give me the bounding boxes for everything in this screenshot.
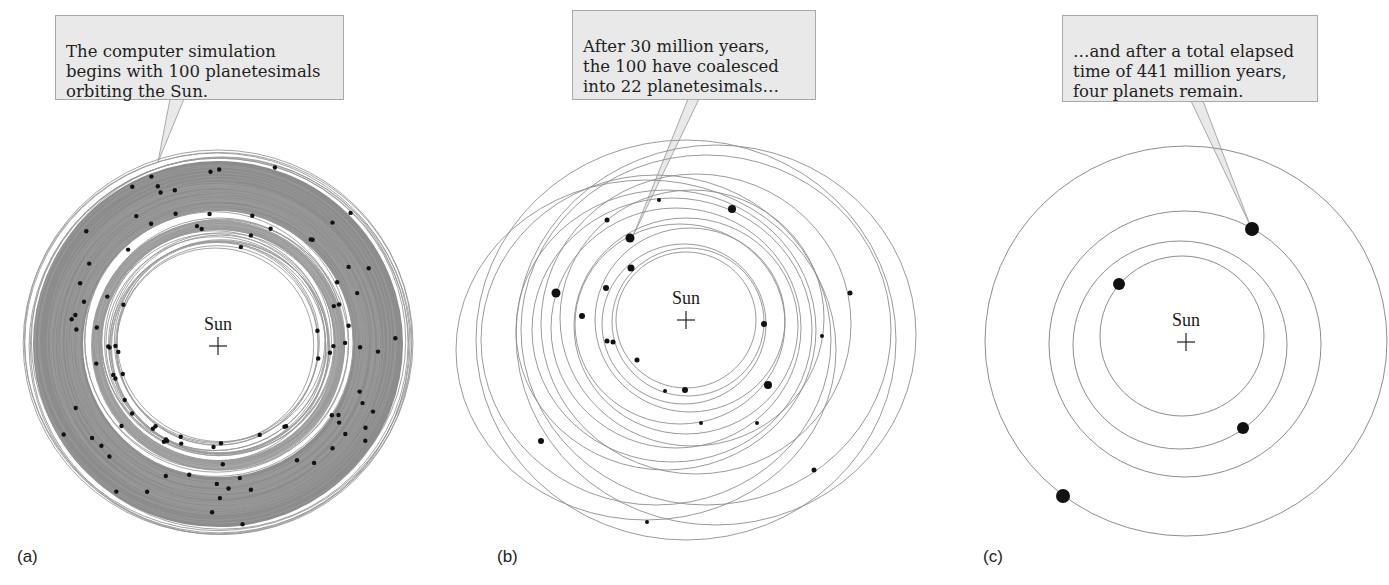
planetesimal [682,387,688,393]
planetesimal [337,420,341,424]
planetesimal [611,340,616,345]
planetesimal [121,372,125,376]
planet-1 [1113,278,1125,290]
planetesimal [635,358,640,363]
planetesimal [628,265,635,272]
planetesimal [94,361,98,365]
planetesimal [126,247,130,251]
planetesimal [657,198,661,202]
planetesimal [130,411,134,415]
sun-marker-icon [209,337,227,355]
planetesimal [116,350,120,354]
planetesimal [357,389,361,393]
planetesimal [156,184,160,188]
planetesimal [249,233,253,237]
planetesimal [268,227,272,231]
panel-b-planetesimals [538,198,853,524]
planetesimal [645,520,649,524]
planetesimal [538,438,544,444]
planetesimal [343,341,347,345]
orbit [481,175,831,505]
planetesimal [355,291,359,295]
planetesimal [337,302,341,306]
planetesimal [316,356,320,360]
planetesimal [330,220,334,224]
planetesimal [119,424,123,428]
panel-label-a: (a) [17,547,38,567]
planetesimal [699,421,703,425]
planetesimal [123,398,127,402]
orbit [612,248,764,396]
orbit [521,155,891,505]
planetesimal [346,324,350,328]
planetesimal [755,421,759,425]
sun-label-b: Sun [672,288,700,309]
callout-a-text: The computer simulation begins with 100 … [66,42,321,101]
planet-formation-figure: The computer simulation begins with 100 … [0,0,1389,585]
callout-a: The computer simulation begins with 100 … [55,15,344,100]
planetesimal [84,229,88,233]
planetesimal [812,468,817,473]
planetesimal [336,413,340,417]
planetesimal [328,351,332,355]
planetesimal [121,303,125,307]
planetesimal [90,436,94,440]
planetesimal [87,261,91,265]
planet-2 [1237,422,1249,434]
planetesimal [239,245,243,249]
planetesimal [74,327,78,331]
planetesimal [273,165,277,169]
planetesimal [107,345,111,349]
planetesimal [310,238,314,242]
planetesimal [149,222,153,226]
planetesimal [603,285,609,291]
planetesimal [363,439,367,443]
planetesimal [134,214,138,218]
sun-label-a: Sun [204,314,232,335]
planetesimal [179,435,183,439]
planetesimal [343,432,347,436]
orbit [117,240,325,442]
planetesimal [113,344,117,348]
planetesimal [73,313,77,317]
panel-b-diagram [456,99,916,540]
planetesimal [312,461,316,465]
planetesimal [200,227,204,231]
planetesimal [358,345,362,349]
panel-label-b: (b) [497,547,518,567]
orbit-3 [1049,211,1321,477]
planetesimal [363,426,367,430]
callout-c-text: …and after a total elapsed time of 441 m… [1073,42,1294,101]
planetesimal [332,304,336,308]
planetesimal [218,496,222,500]
planetesimal [211,445,215,449]
planetesimal [330,446,334,450]
planetesimal [114,489,118,493]
planetesimal [149,174,153,178]
sun-marker-icon [677,311,695,329]
planetesimal [605,339,610,344]
planetesimal [315,329,319,333]
planetesimal [579,313,585,319]
callout-b-text: After 30 million years, the 100 have coa… [583,37,779,96]
planetesimal [258,433,262,437]
callout-a-pointer [158,99,184,162]
planetesimal [331,344,335,348]
panel-b-orbits [456,140,916,540]
planetesimal [70,317,74,321]
planetesimal [113,376,117,380]
planetesimal [151,427,155,431]
orbit [541,174,851,474]
sun-marker-icon [1177,333,1195,351]
planetesimal [219,441,223,445]
planetesimal [210,510,214,514]
planetesimal [761,321,767,327]
planetesimal [605,218,610,223]
planetesimal [187,473,191,477]
planetesimal [250,214,254,218]
planetesimal [330,413,334,417]
planetesimal [820,334,824,338]
planetesimal [173,188,177,192]
planetesimal [764,381,772,389]
planetesimal [130,185,134,189]
